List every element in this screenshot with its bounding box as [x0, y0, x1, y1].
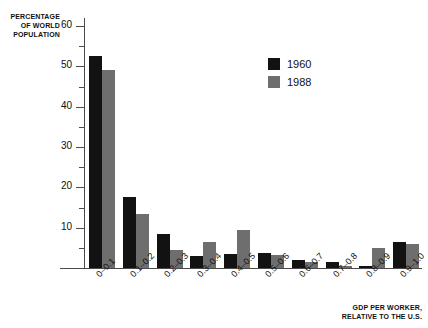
plot-area: 102030405060 — [84, 18, 422, 268]
y-tick-mark — [76, 26, 84, 27]
bar-series-container — [84, 18, 422, 268]
bar-group — [359, 18, 385, 268]
y-tick-label: 10 — [50, 221, 72, 232]
y-tick-label: 50 — [50, 59, 72, 70]
legend-label: 1988 — [287, 76, 311, 88]
y-tick-label: 30 — [50, 140, 72, 151]
bar-1960-0.1–0.2 — [123, 197, 136, 268]
legend-item-1988: 1988 — [268, 74, 311, 90]
y-tick-mark — [76, 187, 84, 188]
bar-group — [190, 18, 216, 268]
legend-item-1960: 1960 — [268, 56, 311, 72]
bar-1960-0.2–0.3 — [157, 234, 170, 268]
legend-swatch — [268, 58, 280, 70]
y-tick-label: 40 — [50, 100, 72, 111]
y-tick-mark — [76, 107, 84, 108]
bar-group — [393, 18, 419, 268]
bar-chart-figure: PERCENTAGE OF WORLD POPULATION 102030405… — [0, 0, 428, 328]
bar-group — [326, 18, 352, 268]
bar-group — [224, 18, 250, 268]
y-tick-mark — [76, 228, 84, 229]
chart-legend: 19601988 — [268, 56, 311, 92]
bar-group — [123, 18, 149, 268]
y-tick-mark — [76, 66, 84, 67]
bar-1988-0–0.1 — [102, 70, 115, 268]
x-axis-title: GDP PER WORKER, RELATIVE TO THE U.S. — [342, 303, 422, 321]
legend-label: 1960 — [287, 58, 311, 70]
bar-group — [157, 18, 183, 268]
bar-1960-0–0.1 — [89, 56, 102, 268]
bar-group — [89, 18, 115, 268]
y-tick-mark — [76, 147, 84, 148]
y-tick-label: 60 — [50, 19, 72, 30]
y-tick-label: 20 — [50, 180, 72, 191]
legend-swatch — [268, 76, 280, 88]
